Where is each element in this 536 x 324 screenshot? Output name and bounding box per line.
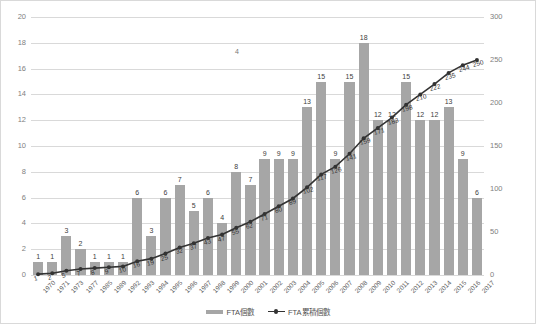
gridline [31, 275, 484, 276]
bar-column: 3 [144, 17, 158, 275]
bar [203, 198, 213, 275]
legend-item-line[interactable]: FTA累積個數 [268, 306, 330, 317]
bar-value-label: 5 [187, 202, 201, 209]
plot-area: 02468101214161820 050100150200250300 113… [31, 17, 484, 275]
x-axis-tick-label: 2001 [254, 279, 269, 294]
bar-column: 7 [173, 17, 187, 275]
bar [472, 198, 482, 275]
x-axis-tick-label: 1992 [126, 279, 141, 294]
x-axis-tick-label: 1996 [183, 279, 198, 294]
bar-column: 6 [201, 17, 215, 275]
bar [61, 236, 71, 275]
x-axis-tick-label: 2010 [381, 279, 396, 294]
bar [444, 107, 454, 275]
bar-value-label: 4 [215, 214, 229, 221]
bar-value-label: 15 [399, 73, 413, 80]
x-axis-tick-label: 1995 [169, 279, 184, 294]
x-axis-tick-label: 1998 [211, 279, 226, 294]
cumulative-value-label: 1 [33, 275, 38, 282]
bar-column: 7 [243, 17, 257, 275]
bar-value-label: 3 [144, 227, 158, 234]
bar-column: 6 [130, 17, 144, 275]
bar-value-label: 1 [88, 253, 102, 260]
y-axis-right-tick: 300 [490, 13, 512, 21]
y-axis-left-tick: 6 [4, 194, 26, 202]
legend-label-line: FTA累積個數 [288, 306, 330, 317]
bar [344, 82, 354, 276]
bar-column: 12 [371, 17, 385, 275]
bar-column: 9 [328, 17, 342, 275]
x-axis-tick-label: 2005 [310, 279, 325, 294]
bar-value-label: 1 [31, 253, 45, 260]
bar-value-label: 9 [328, 150, 342, 157]
x-axis-tick-label: 2009 [367, 279, 382, 294]
bar [146, 236, 156, 275]
cumulative-value-label: 7 [76, 270, 81, 277]
x-axis-tick-label: 1970 [41, 279, 56, 294]
bar-value-label: 6 [130, 189, 144, 196]
x-axis-tick-label: 1977 [84, 279, 99, 294]
bar-column: 2 [73, 17, 87, 275]
x-axis-tick-label: 1997 [197, 279, 212, 294]
x-axis-tick-label: 2012 [409, 279, 424, 294]
bar-column: 1 [45, 17, 59, 275]
x-axis-tick-label: 2004 [296, 279, 311, 294]
bar [415, 120, 425, 275]
y-axis-left-tick: 2 [4, 245, 26, 253]
bar-value-label: 12 [413, 111, 427, 118]
bar-series: 1132111636756487999131591518121215121213… [31, 17, 484, 275]
bar-column: 12 [413, 17, 427, 275]
y-axis-right-tick: 0 [490, 271, 512, 279]
bar-column: 1 [102, 17, 116, 275]
x-axis-tick-label: 1993 [140, 279, 155, 294]
bar-column: 9 [258, 17, 272, 275]
cumulative-value-label: 9 [104, 269, 109, 276]
x-axis-tick-label: 1985 [98, 279, 113, 294]
bar-value-label: 13 [300, 98, 314, 105]
x-axis-tick-label: 1971 [55, 279, 70, 294]
x-axis-tick-label: 2007 [339, 279, 354, 294]
bar-column: 9 [286, 17, 300, 275]
bar-value-label: 6 [158, 189, 172, 196]
bar-value-label: 2 [73, 240, 87, 247]
x-axis-tick-label: 2011 [395, 279, 410, 294]
bar-column: 6 [470, 17, 484, 275]
x-axis-tick-label: 1999 [225, 279, 240, 294]
y-axis-left-tick: 12 [4, 116, 26, 124]
bar [175, 185, 185, 275]
bar-value-label: 7 [173, 176, 187, 183]
bar-value-label: 1 [45, 253, 59, 260]
bar-column: 15 [314, 17, 328, 275]
y-axis-right-tick: 150 [490, 142, 512, 150]
bar-value-label: 9 [456, 150, 470, 157]
bar-value-label: 8 [229, 163, 243, 170]
bar-value-label: 15 [314, 73, 328, 80]
bar-value-label: 15 [342, 73, 356, 80]
bar-column: 15 [399, 17, 413, 275]
y-axis-left-tick: 0 [4, 271, 26, 279]
y-axis-right-tick: 200 [490, 99, 512, 107]
bar [217, 223, 227, 275]
y-axis-right-tick: 50 [490, 228, 512, 236]
bar-column: 1 [116, 17, 130, 275]
bar-column: 5 [187, 17, 201, 275]
x-axis-tick-label: 2017 [480, 279, 495, 294]
bar-value-label: 6 [470, 189, 484, 196]
bar-column: 12 [427, 17, 441, 275]
bar-column: 6 [158, 17, 172, 275]
bar [231, 172, 241, 275]
bar-column: 13 [442, 17, 456, 275]
y-axis-left-tick: 18 [4, 39, 26, 47]
x-axis-tick-label: 2013 [424, 279, 439, 294]
legend-item-bar[interactable]: FTA個數 [206, 306, 254, 317]
y-axis-left-tick: 20 [4, 13, 26, 21]
bar-column: 9 [456, 17, 470, 275]
legend-swatch-line-icon [268, 309, 285, 314]
bar-value-label: 9 [272, 150, 286, 157]
bar-column: 13 [300, 17, 314, 275]
bar-value-label: 3 [59, 227, 73, 234]
bar [33, 262, 43, 275]
bar-column: 3 [59, 17, 73, 275]
bar-value-label: 12 [371, 111, 385, 118]
y-axis-left-tick: 14 [4, 90, 26, 98]
